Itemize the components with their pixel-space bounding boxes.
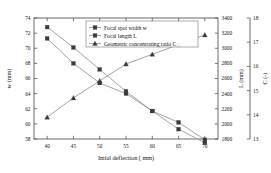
data-point xyxy=(177,127,181,131)
legend-marker-0 xyxy=(93,26,97,30)
left-axis-tick-label: 64 xyxy=(25,91,31,97)
left-axis-tick-label: 70 xyxy=(25,45,31,51)
x-axis-title: Intial deflection ( mm) xyxy=(98,154,154,162)
data-point xyxy=(202,33,207,37)
x-axis-tick-label: 65 xyxy=(176,143,182,149)
data-point xyxy=(72,61,76,65)
x-axis-tick-label: 55 xyxy=(123,143,129,149)
right-axis-1-tick-label: 2000 xyxy=(222,121,233,127)
left-axis-tick-label: 58 xyxy=(25,136,31,142)
right-axis-2-tick-label: 15 xyxy=(253,88,259,94)
right-axis-1-tick-label: 2800 xyxy=(222,60,233,66)
left-axis-tick-label: 68 xyxy=(25,60,31,66)
chart-svg: 586062646668707274w (mm)40455055606570In… xyxy=(0,0,271,173)
left-axis-tick-label: 66 xyxy=(25,75,31,81)
right-axis-1-tick-label: 3000 xyxy=(222,45,233,51)
data-point xyxy=(150,109,154,113)
left-axis-title: w (mm) xyxy=(5,69,13,89)
right-axis-1-tick-label: 2400 xyxy=(222,91,233,97)
data-point xyxy=(72,46,76,50)
data-point xyxy=(203,141,207,145)
right-axis-1-tick-label: 3200 xyxy=(222,30,233,36)
right-axis-1-tick-label: 2600 xyxy=(222,75,233,81)
data-point xyxy=(71,95,76,99)
right-axis-1-tick-label: 1800 xyxy=(222,136,233,142)
right-axis-2-title: C (-) xyxy=(261,73,269,85)
legend-label-0: Focal spot width w xyxy=(104,25,148,31)
legend: Focal spot width wFocal length LGeometri… xyxy=(86,21,198,47)
x-axis-tick-label: 50 xyxy=(97,143,103,149)
series-line-0 xyxy=(47,38,205,139)
chart-figure: 586062646668707274w (mm)40455055606570In… xyxy=(0,0,271,173)
chart-canvas: 586062646668707274w (mm)40455055606570In… xyxy=(0,0,271,173)
data-point xyxy=(98,68,102,72)
x-axis-tick-label: 45 xyxy=(71,143,77,149)
right-axis-2-tick-label: 14 xyxy=(253,112,259,118)
left-axis-tick-label: 62 xyxy=(25,106,31,112)
data-point xyxy=(45,25,49,29)
legend-label-1: Focal length L xyxy=(104,33,137,39)
right-axis-2-tick-label: 17 xyxy=(253,39,259,45)
x-axis-tick-label: 60 xyxy=(150,143,156,149)
left-axis-tick-label: 72 xyxy=(25,30,31,36)
data-point xyxy=(45,37,49,41)
x-axis-tick-label: 40 xyxy=(44,143,50,149)
series-0 xyxy=(45,37,207,142)
right-axis-1-title: L (mm) xyxy=(237,69,245,88)
data-point xyxy=(124,89,128,93)
left-axis-tick-label: 60 xyxy=(25,121,31,127)
right-axis-2-tick-label: 18 xyxy=(253,15,259,21)
left-axis-tick-label: 74 xyxy=(25,15,31,21)
data-point xyxy=(97,79,102,83)
right-axis-1-tick-label: 2200 xyxy=(222,106,233,112)
legend-label-2: Geometric concentrating ratio C xyxy=(104,41,176,47)
right-axis-2-tick-label: 13 xyxy=(253,136,259,142)
right-axis-2-tick-label: 16 xyxy=(253,63,259,69)
legend-marker-1 xyxy=(93,34,97,38)
data-point xyxy=(177,120,181,124)
right-axis-1-tick-label: 3400 xyxy=(222,15,233,21)
